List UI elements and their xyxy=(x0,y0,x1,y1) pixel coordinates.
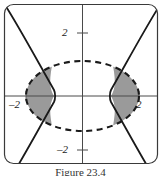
y-axis-label-negative: –2 xyxy=(57,144,68,155)
x-axis-label-positive: 2 xyxy=(136,99,142,110)
figure-container: 2 –2 –2 2 Figure 23.4 xyxy=(0,0,161,176)
plot-svg xyxy=(0,0,161,176)
figure-caption: Figure 23.4 xyxy=(0,166,161,176)
y-axis-label-positive: 2 xyxy=(62,27,68,38)
x-axis-label-negative: –2 xyxy=(9,99,20,110)
